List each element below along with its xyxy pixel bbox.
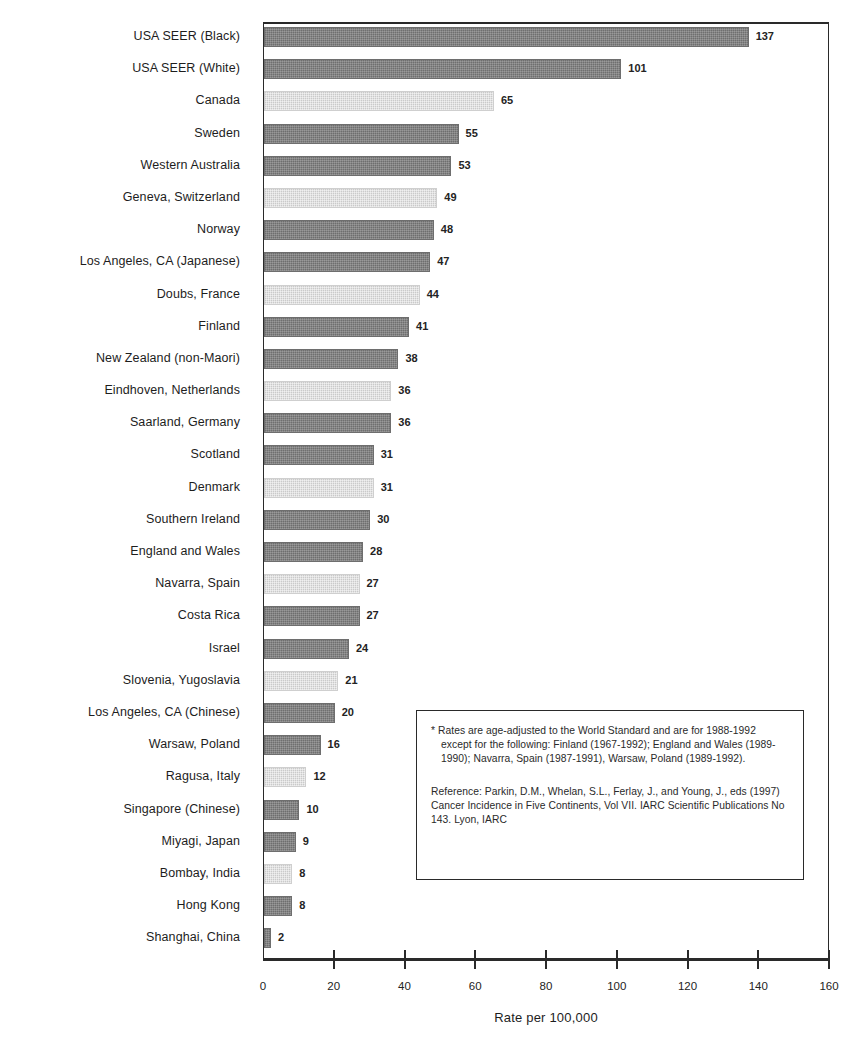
bar-value-label: 41 [416,318,428,334]
bar-row: 21 [264,669,830,701]
bar-value-label: 30 [377,511,389,527]
category-label: Hong Kong [0,894,252,926]
x-axis-tick-label: 60 [469,980,482,992]
bar [264,413,391,433]
bar-value-label: 49 [444,189,456,205]
bar-value-label: 36 [398,382,410,398]
bar [264,478,374,498]
category-label: Eindhoven, Netherlands [0,379,252,411]
bar [264,767,306,787]
category-label: New Zealand (non-Maori) [0,347,252,379]
x-axis-tick-label: 120 [678,980,697,992]
category-label: Finland [0,315,252,347]
bar-value-label: 20 [342,704,354,720]
bar-row: 36 [264,411,830,443]
bar-row: 48 [264,218,830,250]
bar [264,220,434,240]
bar [264,639,349,659]
bar-row: 36 [264,379,830,411]
bar [264,896,292,916]
bar-value-label: 16 [328,736,340,752]
bar [264,671,338,691]
bar [264,542,363,562]
bar-value-label: 2 [278,929,284,945]
x-axis-tick [687,950,689,969]
bar-row: 47 [264,250,830,282]
x-axis-tick-label: 80 [540,980,553,992]
bar-value-label: 8 [299,865,305,881]
bar-value-label: 31 [381,446,393,462]
bar [264,27,749,47]
x-axis-tick [545,950,547,969]
bar [264,606,360,626]
bar-row: 44 [264,283,830,315]
category-label: England and Wales [0,540,252,572]
category-label: Western Australia [0,154,252,186]
x-axis-tick-label: 20 [327,980,340,992]
bar-chart: USA SEER (Black)USA SEER (White)CanadaSw… [0,0,854,1054]
bar-value-label: 65 [501,92,513,108]
bar-value-label: 24 [356,640,368,656]
bar-row: 27 [264,572,830,604]
bar-value-label: 44 [427,286,439,302]
x-axis-tick [333,950,335,969]
bar-row: 38 [264,347,830,379]
bar [264,252,430,272]
x-axis-tick [616,950,618,969]
bar [264,91,494,111]
bar [264,832,296,852]
bar [264,703,335,723]
bar-value-label: 12 [313,768,325,784]
bar-row: 30 [264,508,830,540]
category-label: Israel [0,637,252,669]
bar-row: 27 [264,604,830,636]
category-label: Southern Ireland [0,508,252,540]
category-axis-labels: USA SEER (Black)USA SEER (White)CanadaSw… [0,25,252,958]
bar [264,285,420,305]
bar [264,574,360,594]
category-label: Slovenia, Yugoslavia [0,669,252,701]
bar-row: 53 [264,154,830,186]
bar-value-label: 137 [756,28,774,44]
category-label: Warsaw, Poland [0,733,252,765]
category-label: Canada [0,89,252,121]
bar [264,928,271,948]
bar [264,864,292,884]
bar [264,188,437,208]
x-axis-tick-label: 100 [607,980,626,992]
category-label: Ragusa, Italy [0,765,252,797]
x-axis-tick-label: 40 [398,980,411,992]
bar [264,381,391,401]
bar-row: 55 [264,122,830,154]
bar-row: 31 [264,443,830,475]
category-label: Scotland [0,443,252,475]
bar-row: 65 [264,89,830,121]
category-label: Denmark [0,476,252,508]
bar-row: 137 [264,25,830,57]
category-label: Norway [0,218,252,250]
category-label: Geneva, Switzerland [0,186,252,218]
bar-value-label: 8 [299,897,305,913]
category-label: Shanghai, China [0,926,252,958]
x-axis-tick-label: 160 [819,980,838,992]
category-label: USA SEER (White) [0,57,252,89]
bar-value-label: 47 [437,253,449,269]
category-label: Los Angeles, CA (Japanese) [0,250,252,282]
bar-row: 24 [264,637,830,669]
bar [264,445,374,465]
bar-value-label: 48 [441,221,453,237]
bar [264,800,299,820]
bar-value-label: 38 [405,350,417,366]
x-axis: 020406080100120140160 [263,958,829,961]
x-axis-tick [404,950,406,969]
x-axis-title: Rate per 100,000 [263,1010,829,1025]
bar-value-label: 27 [367,607,379,623]
bar-row: 28 [264,540,830,572]
x-axis-tick [757,950,759,969]
bar-value-label: 36 [398,414,410,430]
bar-value-label: 10 [306,801,318,817]
bar-value-label: 55 [466,125,478,141]
bar-row: 2 [264,926,830,958]
category-label: USA SEER (Black) [0,25,252,57]
bar [264,349,398,369]
